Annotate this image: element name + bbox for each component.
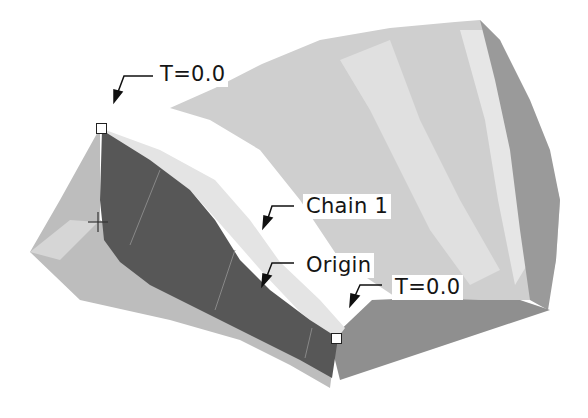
cad-viewport[interactable]: T=0.0 Chain 1 Origin T=0.0 [0,0,588,418]
leader-arrow-icon [114,76,153,102]
label-end-param: T=0.0 [392,275,463,300]
surface-lower-floor [330,298,550,380]
leader-arrow-icon [263,206,294,228]
label-chain: Chain 1 [303,194,391,219]
label-origin: Origin [303,253,374,278]
vertex-marker-start[interactable] [96,123,107,134]
surface-model[interactable] [0,0,588,418]
label-start-param: T=0.0 [157,62,228,87]
vertex-marker-end[interactable] [331,333,342,344]
